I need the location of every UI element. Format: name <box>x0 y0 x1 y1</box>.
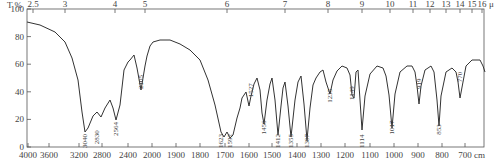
peak-label: 1412 <box>274 134 282 149</box>
peak-label: 1456 <box>260 120 268 135</box>
x-tick-label: 1200 <box>336 150 355 160</box>
x-axis-ticks-top: 2.5345678910111213141516μ <box>27 0 494 13</box>
peak-label: 1355 <box>287 134 295 149</box>
peak-label: 1623 <box>217 134 225 149</box>
top-tick-label: 6 <box>225 0 230 9</box>
peak-label: 2564 <box>112 121 120 136</box>
top-tick-label: 7 <box>283 0 288 9</box>
top-tick-label: 2.5 <box>27 0 39 9</box>
peak-label: 2830 <box>93 130 101 145</box>
x-tick-label: 1600 <box>240 150 259 160</box>
x-tick-label: 1000 <box>385 150 404 160</box>
top-tick-label: 9 <box>360 0 365 9</box>
top-tick-label: 8 <box>326 0 331 9</box>
top-unit-label: μ <box>489 0 494 9</box>
ir-spectrum-chart: T % 020406080100 40003600320028002400200… <box>0 0 500 164</box>
peak-label: 2105 <box>137 74 145 89</box>
x-tick-label: 1500 <box>263 150 282 160</box>
x-tick-label: 2400 <box>119 150 138 160</box>
x-tick-label: 900 <box>411 150 425 160</box>
peak-label: 919 <box>415 78 423 89</box>
x-tick-label: 2000 <box>143 150 162 160</box>
peak-label: 1149 <box>348 86 356 100</box>
x-tick-label: 4000 <box>19 150 38 160</box>
top-tick-label: 3 <box>63 0 68 9</box>
peak-label: 770 <box>456 71 464 82</box>
peak-label: 1527 <box>247 83 255 98</box>
x-tick-label: 700 <box>458 150 472 160</box>
x-tick-label: 1300 <box>312 150 331 160</box>
top-tick-label: 15 <box>468 0 478 9</box>
peak-label: 3040 <box>81 134 89 149</box>
x-tick-label: 3200 <box>70 150 89 160</box>
top-tick-label: 13 <box>442 0 452 9</box>
top-tick-label: 5 <box>143 0 148 9</box>
top-tick-label: 4 <box>113 0 118 9</box>
y-tick-label: 40 <box>15 87 25 97</box>
peak-label: 1017 <box>388 120 396 135</box>
peak-label: 1235 <box>326 88 334 103</box>
x-tick-label: 3600 <box>40 150 59 160</box>
top-tick-label: 12 <box>426 0 435 9</box>
y-tick-label: 100 <box>11 4 25 14</box>
x-tick-label: 1800 <box>191 150 210 160</box>
x-tick-label: 1900 <box>167 150 186 160</box>
x-tick-label: 1100 <box>361 150 379 160</box>
y-tick-label: 80 <box>15 32 25 42</box>
x-tick-label: 1700 <box>216 150 235 160</box>
x-tick-label: 2800 <box>93 150 112 160</box>
x-tick-label: 800 <box>435 150 449 160</box>
top-tick-label: 11 <box>409 0 418 9</box>
y-axis-ticks: 020406080100 <box>11 4 32 152</box>
x-tick-label: 1400 <box>288 150 307 160</box>
peak-label: 1592 <box>226 134 234 149</box>
top-tick-label: 14 <box>456 0 466 9</box>
peak-label: 853 <box>435 124 443 135</box>
top-tick-label: 16 <box>478 0 488 9</box>
y-tick-label: 20 <box>15 114 25 124</box>
x-unit-label: cm <box>474 150 485 160</box>
y-tick-label: 60 <box>15 59 25 69</box>
top-tick-label: 10 <box>386 0 396 9</box>
peak-label: 1114 <box>358 134 366 148</box>
peak-label: 1307 <box>303 134 311 149</box>
